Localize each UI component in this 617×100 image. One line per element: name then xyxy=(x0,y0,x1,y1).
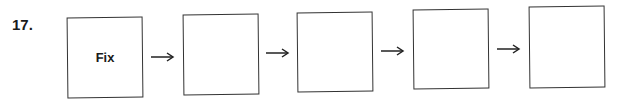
right-arrow-icon xyxy=(266,48,290,58)
problem-number: 17. xyxy=(12,16,33,33)
right-arrow-icon xyxy=(151,52,175,62)
right-arrow-icon xyxy=(497,44,521,54)
sequence-box-3[interactable] xyxy=(297,12,374,93)
right-arrow-icon xyxy=(381,46,405,56)
sequence-box-5[interactable] xyxy=(529,6,606,89)
sequence-box-2[interactable] xyxy=(183,14,260,96)
sequence-box-4[interactable] xyxy=(413,9,490,90)
box-label: Fix xyxy=(96,50,115,65)
sequence-box-1: Fix xyxy=(67,17,144,99)
